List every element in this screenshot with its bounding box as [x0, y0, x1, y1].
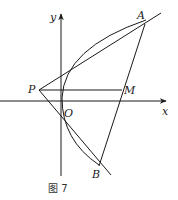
- point-label-m: M: [123, 84, 136, 97]
- point-label-b: B: [91, 168, 100, 181]
- y-axis-label: y: [49, 11, 57, 24]
- point-label-p: P: [27, 83, 36, 96]
- geometry-figure: A B P M O x y 图 7: [0, 0, 178, 200]
- chord-ab: [99, 24, 145, 166]
- figure-caption: 图 7: [48, 183, 68, 194]
- origin-label: O: [64, 107, 73, 120]
- tangent-line-pa: [39, 13, 161, 90]
- x-axis-label: x: [162, 105, 169, 118]
- point-label-a: A: [136, 9, 145, 22]
